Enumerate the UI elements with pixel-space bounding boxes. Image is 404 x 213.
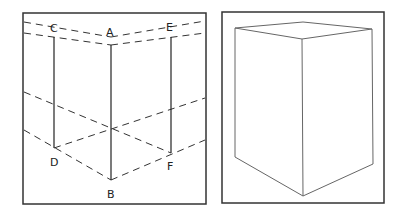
label-A: A bbox=[106, 26, 114, 39]
box-bottom-edges bbox=[235, 157, 373, 196]
label-B: B bbox=[107, 188, 115, 201]
label-F: F bbox=[167, 160, 173, 173]
guide-mid-left bbox=[24, 92, 171, 153]
guide-top-right-upper bbox=[111, 21, 205, 37]
left-frame bbox=[23, 13, 206, 204]
left-panel: C A E D B F bbox=[23, 13, 206, 204]
box bbox=[235, 22, 373, 196]
label-D: D bbox=[50, 156, 58, 169]
guide-mid-right bbox=[54, 98, 205, 148]
label-E: E bbox=[166, 21, 173, 34]
right-panel bbox=[222, 12, 384, 203]
box-top-face bbox=[235, 22, 372, 39]
box-right-edge bbox=[372, 29, 373, 164]
guide-low-left bbox=[24, 130, 111, 180]
label-C: C bbox=[50, 22, 58, 35]
perspective-diagram: C A E D B F bbox=[0, 0, 404, 213]
box-front-edge bbox=[302, 39, 303, 196]
guide-low-right bbox=[111, 140, 205, 180]
